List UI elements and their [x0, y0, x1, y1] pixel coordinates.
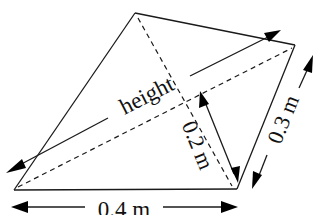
arrowhead-down-icon	[252, 171, 262, 189]
arrowhead-down-left-icon	[6, 159, 26, 173]
arrowhead-down-right-icon	[231, 166, 240, 183]
quadrilateral-diagram: height 0.2 m 0.3 m 0.4 m	[0, 0, 330, 215]
diagonal-bottom-left-to-right	[18, 48, 292, 187]
base-label: 0.4 m	[98, 197, 151, 215]
height-label: height	[115, 71, 178, 120]
arrowhead-left-icon	[11, 201, 28, 213]
height-arrow-line-upper	[190, 36, 270, 76]
side-label: 0.3 m	[262, 91, 304, 147]
height-arrow-line-lower	[14, 118, 108, 168]
edge-bottom	[14, 189, 237, 190]
base-dimension-arrow: 0.4 m	[11, 197, 238, 215]
height-dimension-arrow: height	[6, 30, 281, 173]
arrowhead-up-left-icon	[199, 91, 209, 108]
edge-top	[135, 13, 295, 45]
short-height-label: 0.2 m	[177, 117, 219, 173]
arrowhead-right-icon	[221, 201, 238, 213]
arrowhead-up-icon	[303, 55, 313, 73]
